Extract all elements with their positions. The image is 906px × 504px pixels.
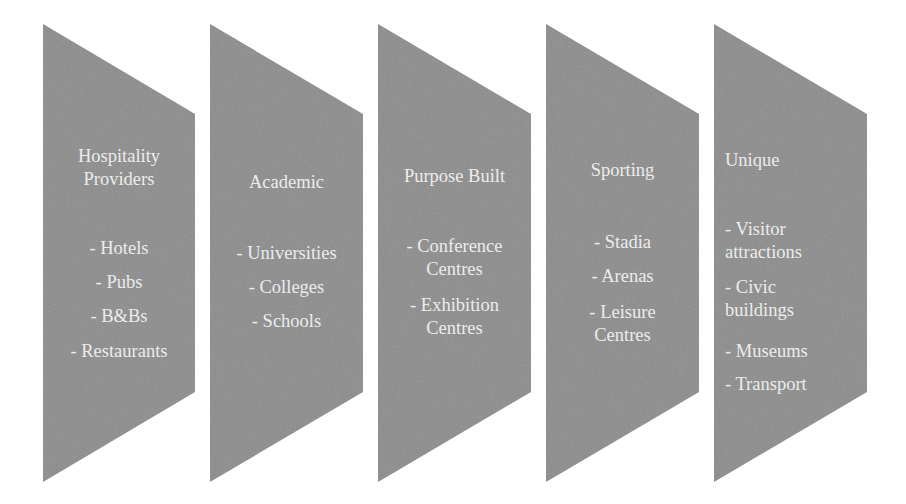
stage-item: - Exhibition Centres (378, 294, 531, 340)
stage-item: - Colleges (210, 276, 363, 299)
item-line: - Visitor (725, 218, 802, 241)
item-line: Centres (546, 324, 699, 347)
item-line: - Leisure (546, 301, 699, 324)
stage-item: - Civic buildings (725, 276, 794, 322)
stage-title: Academic (210, 171, 363, 194)
stage-item: - Stadia (546, 231, 699, 254)
item-line: - Civic (725, 276, 794, 299)
stage-item: - Conference Centres (378, 235, 531, 281)
title-line: Providers (43, 168, 195, 191)
stage-item: - Museums (725, 340, 808, 363)
venue-types-diagram: Hospitality Providers - Hotels - Pubs - … (0, 0, 906, 504)
stage-item: - Universities (210, 242, 363, 265)
stage-item: - Pubs (43, 271, 195, 294)
stage-title: Purpose Built (378, 165, 531, 188)
stage-title: Unique (725, 149, 779, 172)
stage-item: - Arenas (546, 265, 699, 288)
stage-item: - Visitor attractions (725, 218, 802, 264)
item-line: - Exhibition (378, 294, 531, 317)
item-line: attractions (725, 241, 802, 264)
stage-item: - Leisure Centres (546, 301, 699, 347)
item-line: - Conference (378, 235, 531, 258)
item-line: Centres (378, 317, 531, 340)
item-line: Centres (378, 258, 531, 281)
title-line: Hospitality (43, 145, 195, 168)
stage-item: - B&Bs (43, 305, 195, 328)
stage-item: - Schools (210, 310, 363, 333)
stage-item: - Transport (725, 373, 807, 396)
stage-title: Hospitality Providers (43, 145, 195, 191)
stage-title: Sporting (546, 159, 699, 182)
item-line: buildings (725, 299, 794, 322)
stage-item: - Restaurants (43, 340, 195, 363)
stage-item: - Hotels (43, 237, 195, 260)
